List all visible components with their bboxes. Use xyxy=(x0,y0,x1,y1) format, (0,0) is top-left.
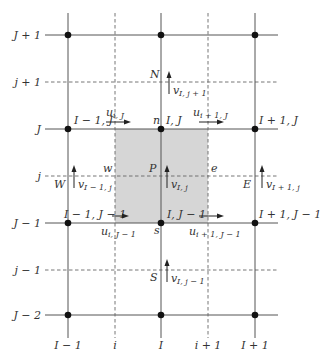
row-label-j: j xyxy=(35,170,42,183)
row-label-J: J xyxy=(35,123,42,136)
row-label-j-minus-1: j − 1 xyxy=(11,264,41,277)
u-velocity-i-plus-1-J: u i + 1, J xyxy=(193,106,229,125)
col-label-I: I xyxy=(158,339,164,352)
v-subscript: I, j − 1 xyxy=(176,277,205,286)
face-label-n: n xyxy=(153,114,160,127)
face-label-w: w xyxy=(103,162,113,175)
u-subscript: i, J xyxy=(113,111,125,120)
point-label-P: P xyxy=(148,162,157,175)
node xyxy=(158,32,165,39)
node xyxy=(252,32,259,39)
v-subscript: I, j + 1 xyxy=(178,89,207,98)
node xyxy=(65,32,72,39)
node-label-I-J: I, J xyxy=(165,114,182,127)
v-velocity-I-plus-1-j: v I + 1, j xyxy=(260,165,301,192)
node-label-I-plus-1-J: I + 1, J xyxy=(258,114,299,127)
node-label-I-plus-1-J-minus-1: I + 1, J − 1 xyxy=(258,208,321,221)
row-label-J-plus-1: J + 1 xyxy=(11,29,41,42)
v-subscript: I, j xyxy=(176,183,188,192)
v-velocity-I-j-minus-1: v I, j − 1 xyxy=(165,259,205,286)
v-subscript: I + 1, j xyxy=(271,183,300,192)
node xyxy=(252,126,259,133)
node-label-I-minus-1-J-minus-1: I − 1, J − 1 xyxy=(63,208,126,221)
node-label-I-J-minus-1: I, J − 1 xyxy=(166,208,206,221)
node xyxy=(252,312,259,319)
row-label-J-minus-2: J − 2 xyxy=(11,309,41,322)
node xyxy=(65,126,72,133)
point-label-S: S xyxy=(150,271,158,284)
col-label-I-plus-1: I + 1 xyxy=(240,339,269,352)
face-label-s: s xyxy=(154,224,160,237)
u-velocity-i-J: u i, J xyxy=(106,106,131,125)
face-label-e: e xyxy=(211,162,218,175)
u-subscript: i + 1, J xyxy=(200,111,229,120)
u-subscript: i + 1, J − 1 xyxy=(196,230,241,239)
point-label-N: N xyxy=(149,68,160,81)
staggered-grid-diagram: J + 1 j + 1 J j J − 1 j − 1 J − 2 I − 1 … xyxy=(0,0,322,364)
node xyxy=(252,220,259,227)
node xyxy=(158,312,165,319)
row-label-J-minus-1: J − 1 xyxy=(11,217,41,230)
node xyxy=(65,312,72,319)
row-label-j-plus-1: j + 1 xyxy=(11,76,41,89)
col-label-I-minus-1: I − 1 xyxy=(53,339,82,352)
point-label-E: E xyxy=(242,178,251,191)
u-subscript: i, J − 1 xyxy=(108,230,136,239)
point-label-W: W xyxy=(54,178,67,191)
col-label-i: i xyxy=(113,339,117,352)
col-label-i-plus-1: i + 1 xyxy=(195,339,222,352)
v-subscript: I − 1, j xyxy=(83,183,112,192)
v-velocity-I-j-plus-1: v I, j + 1 xyxy=(167,71,207,98)
